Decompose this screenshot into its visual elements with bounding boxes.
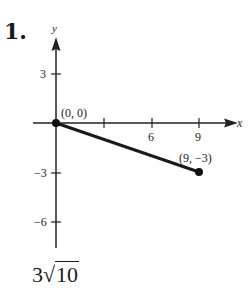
y-tick-label-neg3: −3	[34, 166, 47, 180]
point-label-origin: (0, 0)	[61, 106, 87, 120]
answer-radicand: 10	[55, 261, 79, 287]
point-label-end: (9, −3)	[179, 151, 212, 165]
point-end	[195, 168, 203, 176]
answer-coefficient: 3	[32, 262, 43, 287]
sqrt-icon: √	[43, 262, 55, 287]
y-tick-label-neg6: −6	[34, 215, 47, 229]
line-segment	[56, 123, 199, 172]
x-tick-label-9: 9	[195, 130, 201, 144]
coordinate-plot: x y 6 9 3 −3 −6 (0, 0) (9, −3)	[0, 0, 249, 296]
y-tick-label-3: 3	[40, 67, 46, 81]
x-axis-label: x	[236, 116, 243, 130]
point-origin	[52, 119, 60, 127]
y-axis-label: y	[51, 22, 57, 34]
x-tick-label-6: 6	[148, 130, 154, 144]
y-axis-arrow-icon	[52, 37, 61, 51]
answer: 3√10	[32, 262, 79, 288]
x-axis-arrow-icon	[224, 119, 238, 128]
